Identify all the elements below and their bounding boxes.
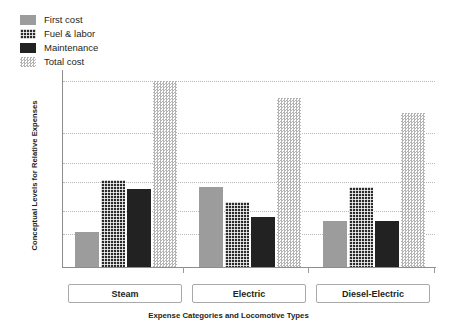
bar — [225, 202, 249, 267]
bar — [375, 221, 399, 267]
bar — [127, 189, 151, 267]
bar — [323, 221, 347, 267]
axis-tick — [183, 267, 184, 273]
bar — [401, 113, 425, 267]
bar — [153, 81, 177, 267]
legend-swatch-maintenance-icon — [20, 43, 36, 53]
bar — [199, 187, 223, 267]
bar-group — [67, 70, 191, 267]
legend-swatch-first-cost-icon — [20, 15, 36, 25]
category-box-diesel-electric: Diesel-Electric — [316, 284, 430, 303]
legend-label-first-cost: First cost — [44, 15, 83, 25]
bar — [75, 232, 99, 267]
legend-label-maintenance: Maintenance — [44, 43, 98, 53]
legend-item-fuel-labor: Fuel & labor — [20, 27, 98, 41]
legend-item-maintenance: Maintenance — [20, 41, 98, 55]
x-axis-line — [62, 267, 436, 268]
x-axis-title: Expense Categories and Locomotive Types — [0, 311, 457, 320]
legend-item-total-cost: Total cost — [20, 55, 98, 69]
bar — [101, 180, 125, 267]
legend-item-first-cost: First cost — [20, 13, 98, 27]
axis-tick — [434, 267, 435, 273]
bar — [251, 217, 275, 267]
category-box-steam: Steam — [68, 284, 182, 303]
legend-swatch-fuel-labor-icon — [20, 29, 36, 39]
legend-label-total-cost: Total cost — [44, 57, 84, 67]
plot-area — [62, 70, 435, 267]
legend-label-fuel-labor: Fuel & labor — [44, 29, 95, 39]
bar — [277, 98, 301, 267]
bar — [349, 187, 373, 267]
chart-legend: First cost Fuel & labor Maintenance Tota… — [20, 13, 98, 69]
bar-chart-figure: First cost Fuel & labor Maintenance Tota… — [0, 0, 457, 330]
legend-swatch-total-cost-icon — [20, 57, 36, 67]
category-box-electric: Electric — [192, 284, 306, 303]
bar-group — [315, 70, 439, 267]
y-axis-title: Conceptual Levels for Relative Expenses — [30, 81, 39, 271]
bar-group — [191, 70, 315, 267]
axis-tick — [308, 267, 309, 273]
